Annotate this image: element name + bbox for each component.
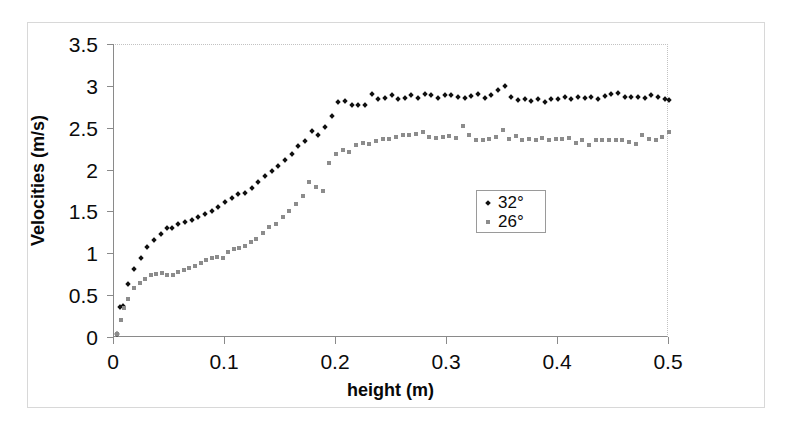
data-point	[640, 133, 644, 137]
data-point	[132, 286, 136, 290]
data-point	[215, 255, 219, 259]
data-point	[469, 93, 475, 99]
y-tick	[107, 253, 114, 254]
data-point	[307, 180, 311, 184]
data-point	[547, 138, 551, 142]
data-point	[176, 270, 180, 274]
legend-label-32: 32°	[498, 193, 524, 212]
data-point	[335, 99, 341, 105]
data-point	[588, 94, 594, 100]
data-points-layer	[114, 45, 669, 338]
diamond-marker-icon	[483, 201, 493, 205]
data-point	[226, 250, 230, 254]
x-tick	[446, 337, 447, 344]
legend-item-32: 32°	[477, 193, 545, 212]
x-tick-label: 0.5	[638, 349, 698, 375]
data-point	[176, 221, 182, 227]
data-point	[389, 92, 395, 98]
data-point	[602, 93, 608, 99]
data-point	[249, 185, 255, 191]
data-point	[126, 281, 132, 287]
data-point	[349, 102, 355, 108]
data-point	[199, 261, 203, 265]
data-point	[520, 138, 524, 142]
data-point	[341, 148, 345, 152]
data-point	[515, 97, 521, 103]
data-point	[622, 94, 628, 100]
data-point	[529, 98, 535, 104]
data-point	[138, 281, 142, 285]
data-point	[196, 215, 202, 221]
data-point	[160, 271, 164, 275]
data-point	[193, 264, 197, 268]
x-tick	[668, 337, 669, 344]
data-point	[614, 138, 618, 142]
data-point	[421, 130, 425, 134]
data-point	[254, 237, 258, 241]
data-point	[502, 83, 508, 89]
data-point	[131, 266, 137, 272]
data-point	[487, 137, 491, 141]
data-point	[362, 102, 368, 108]
data-point	[329, 113, 335, 119]
data-point	[354, 143, 358, 147]
data-point	[322, 124, 328, 130]
data-point	[435, 95, 441, 101]
data-point	[542, 99, 548, 105]
data-point	[342, 98, 348, 104]
data-point	[314, 185, 318, 189]
data-point	[582, 95, 588, 101]
x-tick	[224, 337, 225, 344]
data-point	[126, 297, 130, 301]
data-point	[647, 137, 651, 141]
data-point	[475, 92, 481, 98]
data-point	[144, 244, 150, 250]
data-point	[449, 92, 455, 98]
data-point	[574, 141, 578, 145]
data-point	[255, 179, 261, 185]
data-point	[381, 137, 385, 141]
data-point	[648, 92, 654, 98]
data-point	[535, 97, 541, 103]
data-point	[522, 97, 528, 103]
x-tick-label: 0	[83, 349, 143, 375]
x-tick-label: 0.1	[194, 349, 254, 375]
data-point	[442, 92, 448, 98]
data-point	[189, 217, 195, 223]
data-point	[455, 94, 461, 100]
data-point	[514, 134, 518, 138]
data-point	[628, 94, 634, 100]
data-point	[289, 151, 295, 157]
data-point	[562, 94, 568, 100]
data-point	[249, 240, 253, 244]
data-point	[143, 277, 147, 281]
data-point	[560, 137, 564, 141]
data-point	[287, 209, 291, 213]
data-point	[594, 138, 598, 142]
data-point	[158, 231, 164, 237]
data-point	[154, 272, 158, 276]
data-point	[361, 141, 365, 145]
data-point	[269, 169, 275, 175]
square-marker-icon	[483, 220, 493, 224]
data-point	[229, 195, 235, 201]
data-point	[169, 225, 175, 231]
x-axis-title: height (m)	[113, 380, 668, 401]
data-point	[635, 94, 641, 100]
data-point	[554, 137, 558, 141]
data-point	[642, 95, 648, 101]
data-point	[394, 135, 398, 139]
data-point	[401, 133, 405, 137]
data-point	[367, 142, 371, 146]
data-point	[115, 332, 119, 336]
data-point	[275, 163, 281, 169]
data-point	[482, 95, 488, 101]
data-point	[235, 191, 241, 197]
data-point	[334, 152, 338, 156]
data-point	[434, 136, 438, 140]
data-point	[138, 255, 144, 261]
data-point	[202, 211, 208, 217]
data-point	[204, 258, 208, 262]
data-point	[355, 102, 361, 108]
x-tick	[557, 337, 558, 344]
